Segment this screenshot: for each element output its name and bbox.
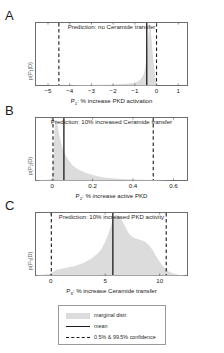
xtick-label: 0.6 <box>169 182 178 189</box>
panel-b-ylabel: p(P₂|D) <box>27 157 33 175</box>
xtick-label: 1 <box>176 87 179 94</box>
panel-b-xticks: 00.20.40.6 <box>35 182 188 191</box>
xtick-label: 0.2 <box>88 182 97 189</box>
marginal-distribution-swatch-icon <box>65 310 91 321</box>
panel-letter-c: C <box>5 198 14 213</box>
legend-label-marginal: marginal distr. <box>94 312 128 318</box>
panel-c-distribution <box>35 212 188 276</box>
figure-root: A p(P₁|D) Prediction: no Ceramide transf… <box>0 0 224 353</box>
xtick-label: 10 <box>156 277 163 284</box>
panel-letter-a: A <box>5 8 14 23</box>
panel-a: A p(P₁|D) Prediction: no Ceramide transf… <box>0 8 224 108</box>
panel-c-plot: Prediction: 10% increased PKD activity <box>35 212 188 276</box>
xtick-label: 0 <box>155 87 158 94</box>
confidence-dashed-line-icon <box>65 332 91 343</box>
xtick-label: 0 <box>49 277 52 284</box>
xtick-label: −2 <box>110 87 117 94</box>
panel-a-title: Prediction: no Ceramide transfer <box>35 24 188 30</box>
panel-a-plot: Prediction: no Ceramide transfer <box>35 22 188 86</box>
panel-c-ylabel: p(P₃|D) <box>27 252 33 270</box>
panel-b-plot: Prediction: 10% increased Ceramide trans… <box>35 117 188 181</box>
xtick-label: −3 <box>88 87 95 94</box>
legend-item-marginal: marginal distr. <box>59 310 165 321</box>
xtick-label: −4 <box>66 87 73 94</box>
panel-letter-b: B <box>5 103 14 118</box>
panel-b-title: Prediction: 10% increased Ceramide trans… <box>35 119 188 125</box>
panel-b-distribution <box>35 117 188 181</box>
legend-label-mean: mean <box>94 323 108 329</box>
xtick-label: 5 <box>104 277 107 284</box>
panel-a-distribution <box>35 22 188 86</box>
legend-item-confidence: 0.5% & 99.5% confidence <box>59 332 165 343</box>
panel-a-ylabel: p(P₁|D) <box>27 62 33 80</box>
panel-c-title: Prediction: 10% increased PKD activity <box>35 214 188 220</box>
legend-label-confidence: 0.5% & 99.5% confidence <box>94 334 156 340</box>
xtick-label: −1 <box>131 87 138 94</box>
xtick-label: 0 <box>50 182 53 189</box>
xtick-label: 0.4 <box>129 182 138 189</box>
panel-a-xticks: −5−4−3−2−101 <box>35 87 188 96</box>
legend: marginal distr. mean 0.5% & 99.5% confid… <box>58 305 166 345</box>
panel-c-xticks: 0510 <box>35 277 188 286</box>
panel-c: C p(P₃|D) Prediction: 10% increased PKD … <box>0 198 224 298</box>
panel-b: B p(P₂|D) Prediction: 10% increased Cera… <box>0 103 224 203</box>
xtick-label: −5 <box>44 87 51 94</box>
panel-c-xlabel: P3: % increase Ceramide transfer <box>35 287 188 296</box>
legend-item-mean: mean <box>59 321 165 332</box>
panel-c-xlabel-rest: : % increase Ceramide transfer <box>73 287 157 294</box>
mean-line-icon <box>65 321 91 332</box>
